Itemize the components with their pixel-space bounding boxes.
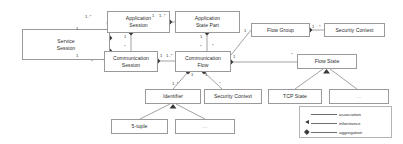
- multiplicity-label: *: [291, 53, 293, 57]
- multiplicity-label: 1: [233, 55, 235, 59]
- edge-flowstate-to-tcp-state: [295, 69, 323, 89]
- multiplicity-label: 1: [76, 54, 78, 58]
- edge-commflow-to-flow-group: [231, 30, 251, 55]
- node-label: Flow Group: [267, 27, 294, 34]
- multiplicity-label: 1..*: [166, 54, 172, 58]
- multiplicity-label: *: [219, 82, 221, 86]
- node-label: Service Session: [57, 38, 75, 51]
- node-identifier[interactable]: Identifier: [145, 89, 201, 104]
- legend-label: association: [339, 112, 361, 117]
- node-security-context-top[interactable]: Security Context: [324, 23, 385, 37]
- node-application-state-part[interactable]: Application State Part: [175, 11, 240, 33]
- node-security-context-mid[interactable]: Security Context: [204, 89, 262, 104]
- node-identifier-other[interactable]: ...: [175, 119, 235, 134]
- multiplicity-label: 1: [244, 29, 246, 33]
- node-label: ...: [356, 93, 362, 100]
- legend-label: aggregation: [339, 130, 362, 135]
- multiplicity-label: *: [200, 45, 202, 49]
- node-label: Communication Session: [113, 55, 149, 68]
- edge-identifier-to-five-tuple: [140, 104, 170, 119]
- multiplicity-label: 1: [152, 14, 154, 18]
- uml-class-diagram: Service Session Application Session Appl…: [0, 0, 403, 144]
- multiplicity-label: 1: [124, 35, 126, 39]
- legend-item-aggregation: aggregation: [300, 128, 391, 137]
- node-label: Security Context: [214, 93, 252, 100]
- edge-identifier-to-other: [176, 104, 205, 119]
- node-label: 5-tuple: [132, 123, 148, 130]
- multiplicity-label: 1: [312, 25, 314, 29]
- node-service-session[interactable]: Service Session: [22, 29, 110, 60]
- legend-item-association: association: [300, 110, 391, 119]
- node-flow-state[interactable]: Flow State: [297, 54, 357, 69]
- association-line-icon: [305, 110, 339, 119]
- inheritance-triangle-icon: [305, 119, 339, 128]
- legend-item-inheritance: inheritance: [300, 119, 391, 128]
- node-label: ...: [202, 123, 208, 130]
- node-label: Communication Flow: [185, 55, 221, 68]
- node-label: Application Session: [126, 15, 151, 28]
- node-label: Identifier: [163, 93, 183, 100]
- multiplicity-label: 1..*: [85, 15, 91, 19]
- node-communication-session[interactable]: Communication Session: [104, 51, 158, 72]
- multiplicity-label: 1: [205, 73, 207, 77]
- node-label: Security Context: [335, 27, 373, 34]
- multiplicity-label: *: [91, 60, 93, 64]
- node-tcp-state[interactable]: TCP State: [268, 89, 322, 104]
- edge-flowstate-to-other: [330, 69, 357, 89]
- multiplicity-label: 1: [191, 73, 193, 77]
- multiplicity-label: *: [319, 25, 321, 29]
- multiplicity-label: 1: [200, 35, 202, 39]
- node-communication-flow[interactable]: Communication Flow: [175, 51, 231, 72]
- multiplicity-label: 1..*: [172, 82, 178, 86]
- node-label: Application State Part: [195, 15, 220, 28]
- node-label: Flow State: [315, 58, 340, 65]
- node-label: TCP State: [283, 93, 307, 100]
- multiplicity-label: *: [124, 45, 126, 49]
- multiplicity-label: *: [212, 44, 214, 48]
- aggregation-diamond-icon: [305, 128, 339, 137]
- node-five-tuple[interactable]: 5-tuple: [111, 119, 168, 134]
- node-flow-group[interactable]: Flow Group: [251, 23, 310, 37]
- multiplicity-label: 1: [76, 27, 78, 31]
- legend: association inheritance aggregation: [299, 106, 392, 138]
- node-flow-state-other[interactable]: ...: [329, 89, 389, 104]
- multiplicity-label: 1..*: [159, 14, 165, 18]
- multiplicity-label: 1: [160, 54, 162, 58]
- legend-label: inheritance: [339, 121, 360, 126]
